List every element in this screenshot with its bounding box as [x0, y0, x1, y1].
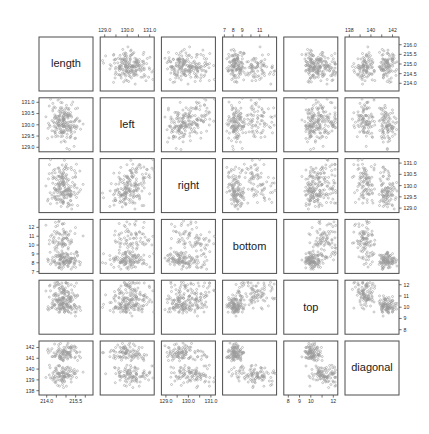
axis-tick-label: 130.0	[404, 183, 417, 189]
axis-tick-label: 9	[32, 251, 35, 257]
splom-panel-left-vs-right	[161, 97, 215, 151]
axis-tick-label: 9	[298, 398, 301, 404]
axis-tick-label: 130.0	[182, 398, 195, 404]
panel-variable-label-right: right	[178, 179, 199, 191]
axis-tick-label: 129.0	[404, 205, 417, 211]
panel-frame	[223, 341, 277, 395]
axis-tick-label: 130.0	[121, 27, 134, 33]
axis-tick-label: 138	[345, 27, 354, 33]
axis-tick-label: 129.5	[21, 133, 34, 139]
splom-panel-top-vs-bottom	[223, 280, 277, 334]
splom-panel-bottom-vs-left	[100, 219, 154, 273]
axis-tick-label: 7	[223, 27, 226, 33]
splom-panel-bottom-vs-bottom: bottom	[223, 219, 277, 273]
splom-panel-length-vs-diagonal	[345, 37, 399, 91]
axis-tick-label: 138	[26, 388, 35, 394]
axis-tick-label: 10	[29, 242, 35, 248]
axis-tick-label: 11	[257, 27, 262, 33]
splom-panel-left-vs-left: left	[100, 98, 154, 152]
splom-panel-bottom-vs-right	[161, 219, 215, 273]
axis-tick-label: 7	[32, 269, 35, 275]
splom-panel-length-vs-left	[100, 37, 154, 91]
scatterplot-matrix: lengthleftrightbottomtopdiagonal129.0130…	[0, 0, 429, 434]
axis-tick-label: 12	[330, 398, 336, 404]
axis-tick-label: 9	[241, 27, 244, 33]
splom-panel-right-vs-top	[284, 159, 338, 213]
panel-frame	[284, 219, 338, 273]
splom-panel-length-vs-bottom	[223, 37, 277, 91]
splom-panel-diagonal-vs-top	[284, 341, 338, 395]
panel-frame	[345, 219, 399, 273]
axis-bottom-right: 129.0130.0131.0	[159, 395, 217, 404]
splom-panel-bottom-vs-length	[39, 219, 93, 273]
panel-variable-label-bottom: bottom	[233, 240, 267, 252]
axis-right-top: 12111098	[399, 282, 409, 333]
splom-panel-diagonal-vs-right	[161, 341, 215, 395]
axis-tick-label: 131.0	[404, 160, 417, 166]
axis-tick-label: 12	[404, 282, 410, 288]
panel-frame	[100, 37, 154, 91]
splom-panel-left-vs-diagonal	[345, 97, 399, 151]
splom-panel-top-vs-left	[100, 280, 154, 334]
axis-bottom-length: 214.0215.5	[40, 395, 85, 404]
axis-tick-label: 8	[32, 260, 35, 266]
axis-tick-label: 140	[367, 27, 376, 33]
axis-tick-label: 131.0	[21, 99, 34, 105]
splom-panel-top-vs-right	[161, 280, 215, 334]
axis-tick-label: 10	[404, 304, 410, 310]
axis-right-right: 131.0130.5130.0129.5129.0	[399, 160, 417, 211]
splom-panel-bottom-vs-top	[284, 219, 338, 273]
axis-left-diagonal: 142141140139138	[26, 344, 39, 393]
panel-frame	[223, 280, 277, 334]
axis-top-bottom: 78911	[223, 27, 269, 37]
axis-tick-label: 131.0	[143, 27, 156, 33]
axis-tick-label: 130.0	[21, 122, 34, 128]
splom-panel-diagonal-vs-length	[39, 341, 93, 395]
axis-bottom-top: 891012	[287, 395, 336, 404]
axis-tick-label: 141	[26, 355, 35, 361]
axis-tick-label: 215.0	[404, 61, 417, 67]
axis-tick-label: 214.5	[404, 71, 417, 77]
splom-panel-length-vs-top	[284, 37, 338, 91]
axis-tick-label: 129.0	[159, 398, 172, 404]
panel-variable-label-diagonal: diagonal	[351, 361, 393, 373]
panel-variable-label-length: length	[51, 57, 81, 69]
splom-panel-right-vs-bottom	[223, 159, 277, 213]
splom-panel-length-vs-right	[161, 37, 215, 91]
axis-tick-label: 8	[232, 27, 235, 33]
splom-panel-left-vs-bottom	[223, 97, 277, 151]
axis-tick-label: 8	[404, 327, 407, 333]
axis-tick-label: 140	[26, 366, 35, 372]
splom-panel-length-vs-length: length	[39, 37, 93, 91]
axis-tick-label: 131.0	[204, 398, 217, 404]
axis-top-diagonal: 138140142	[345, 27, 397, 37]
axis-tick-label: 214.0	[40, 398, 53, 404]
axis-left-bottom: 121110987	[29, 224, 39, 274]
splom-panel-top-vs-diagonal	[345, 280, 399, 334]
axis-tick-label: 130.5	[21, 110, 34, 116]
splom-canvas: lengthleftrightbottomtopdiagonal129.0130…	[0, 0, 429, 434]
axis-tick-label: 129.0	[21, 144, 34, 150]
axis-top-left: 129.0130.0131.0	[98, 27, 156, 37]
axis-tick-label: 9	[404, 315, 407, 321]
splom-panel-top-vs-length	[39, 280, 93, 334]
axis-tick-label: 8	[287, 398, 290, 404]
axis-tick-label: 216.0	[404, 42, 417, 48]
axis-tick-label: 11	[29, 233, 34, 239]
axis-tick-label: 129.0	[98, 27, 111, 33]
splom-panel-left-vs-length	[39, 97, 93, 151]
panel-variable-label-left: left	[120, 118, 135, 130]
splom-panel-right-vs-diagonal	[345, 159, 399, 213]
axis-right-length: 216.0215.5215.0214.5214.0	[399, 42, 417, 87]
splom-panel-diagonal-vs-left	[100, 341, 154, 395]
splom-panel-bottom-vs-diagonal	[345, 219, 399, 273]
axis-left-left: 131.0130.5130.0129.5129.0	[21, 99, 39, 150]
axis-tick-label: 130.5	[404, 171, 417, 177]
axis-tick-label: 12	[29, 224, 35, 230]
splom-panel-diagonal-vs-bottom	[223, 341, 277, 395]
splom-panel-left-vs-top	[284, 97, 338, 151]
axis-tick-label: 11	[404, 293, 409, 299]
splom-panel-right-vs-right: right	[161, 159, 215, 213]
axis-tick-label: 10	[308, 398, 314, 404]
splom-panel-right-vs-length	[39, 159, 93, 213]
